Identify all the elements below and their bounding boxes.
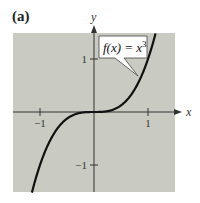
function-label: f(x) = x3 xyxy=(103,39,147,55)
cubic-function-chart: xy −111−1 f(x) = x3 xyxy=(0,0,200,203)
x-axis-label: x xyxy=(185,105,192,119)
x-tick-label: −1 xyxy=(34,117,46,129)
y-axis-arrow-icon xyxy=(91,25,97,33)
y-tick-label: −1 xyxy=(75,159,87,171)
y-axis-label: y xyxy=(90,10,97,24)
x-axis-arrow-icon xyxy=(174,109,182,115)
y-tick-label: 1 xyxy=(82,53,88,65)
x-tick-label: 1 xyxy=(145,117,151,129)
